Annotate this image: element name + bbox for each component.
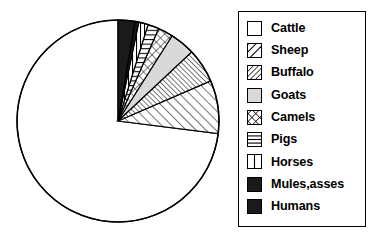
legend-item-horses[interactable]: Horses (239, 151, 365, 173)
swatch-solid-black-icon (247, 199, 262, 214)
legend-item-mules-asses[interactable]: Mules,asses (239, 173, 365, 195)
legend-label: Mules,asses (271, 178, 344, 191)
legend-label: Humans (271, 200, 320, 213)
legend-label: Pigs (271, 133, 297, 146)
legend-label: Camels (271, 111, 315, 124)
legend-label: Buffalo (271, 66, 314, 79)
legend-item-sheep[interactable]: Sheep (239, 39, 365, 61)
legend-item-pigs[interactable]: Pigs (239, 128, 365, 150)
pie-chart (12, 16, 226, 228)
swatch-solid-black-icon (247, 177, 262, 192)
legend-item-buffalo[interactable]: Buffalo (239, 62, 365, 84)
legend-box: Cattle Sheep (238, 11, 366, 227)
swatch-crosshatch-icon (247, 110, 262, 125)
swatch-diagonal-wide-icon (247, 43, 262, 58)
legend-label: Goats (271, 89, 306, 102)
chart-figure: Cattle Sheep (0, 0, 372, 239)
legend-label: Horses (271, 156, 313, 169)
legend-label: Cattle (271, 22, 305, 35)
legend-item-cattle[interactable]: Cattle (239, 17, 365, 39)
legend-item-goats[interactable]: Goats (239, 84, 365, 106)
legend-item-camels[interactable]: Camels (239, 106, 365, 128)
swatch-diagonal-dense-icon (247, 65, 262, 80)
swatch-vertical-icon (247, 154, 262, 169)
legend-label: Sheep (271, 44, 308, 57)
legend-item-humans[interactable]: Humans (239, 195, 365, 217)
pie-slice-group (17, 20, 219, 222)
swatch-solid-gray-icon (247, 88, 262, 103)
pie-chart-svg (12, 16, 226, 228)
swatch-horizontal-icon (247, 132, 262, 147)
swatch-blank-icon (247, 21, 262, 36)
